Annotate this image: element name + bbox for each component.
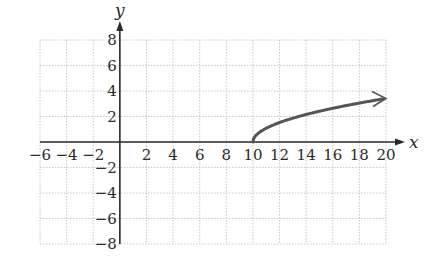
y-tick-label: −6 bbox=[95, 210, 117, 228]
x-tick-label: 2 bbox=[142, 146, 152, 164]
y-tick-label: 2 bbox=[107, 108, 117, 126]
y-tick-label: −4 bbox=[95, 184, 117, 202]
y-tick-label: 8 bbox=[107, 31, 117, 49]
x-tick-label: 20 bbox=[376, 146, 395, 164]
x-tick-label: 18 bbox=[350, 146, 369, 164]
y-tick-label: −8 bbox=[95, 235, 117, 253]
x-tick-label: 4 bbox=[168, 146, 178, 164]
y-tick-label: 6 bbox=[107, 57, 117, 75]
x-tick-label: 8 bbox=[222, 146, 232, 164]
x-tick-label: 10 bbox=[243, 146, 262, 164]
y-tick-label: −2 bbox=[95, 159, 117, 177]
y-axis-label: y bbox=[114, 0, 125, 20]
y-tick-label: 4 bbox=[107, 82, 117, 100]
x-axis-label: x bbox=[409, 132, 419, 152]
x-axis-arrow-icon bbox=[395, 139, 405, 146]
x-tick-label: 6 bbox=[195, 146, 205, 164]
x-tick-label: −6 bbox=[29, 146, 51, 164]
x-tick-label: 12 bbox=[270, 146, 289, 164]
y-axis-arrow-icon bbox=[116, 21, 123, 31]
curve-line bbox=[253, 99, 383, 142]
x-tick-label: −4 bbox=[56, 146, 78, 164]
chart: −6−4−224681012141618208642−2−4−6−8 x y bbox=[0, 0, 427, 260]
x-tick-label: 14 bbox=[297, 146, 316, 164]
x-tick-label: 16 bbox=[323, 146, 342, 164]
